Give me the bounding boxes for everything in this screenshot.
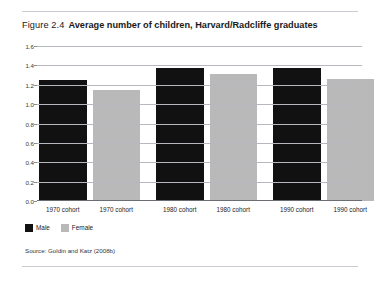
figure-source-note: Source: Goldin and Katz (2008b) [25,247,115,254]
figure-bottom-rule [22,266,358,267]
x-axis-tick-label: 1990 cohort [280,206,313,213]
gridline [37,46,362,47]
y-axis-tick-label: 1.2 [25,81,34,88]
gridline [37,124,362,125]
legend-label-male: Male [36,224,50,232]
y-axis-tick [34,46,37,47]
y-axis-tick-label: 1.4 [25,62,34,69]
y-axis-tick [34,104,37,105]
y-axis-tick [34,124,37,125]
y-axis-tick-label: 0.0 [25,198,34,205]
legend-label-female: Female [72,224,93,232]
y-axis-tick [34,182,37,183]
gridline [37,143,362,144]
y-axis-tick [34,65,37,66]
y-axis-tick [34,143,37,144]
legend-item-male: Male [25,224,50,232]
y-axis-tick [34,201,37,202]
figure-top-rule [22,11,358,12]
bar-male-1970 [39,80,87,201]
gridline [37,85,362,86]
y-axis-tick-label: 1.6 [25,43,34,50]
x-axis-tick-label: 1980 cohort [217,206,250,213]
x-axis-tick-label: 1990 cohort [334,206,367,213]
gridline [37,65,362,66]
y-axis-tick-label: 0.2 [25,178,34,185]
chart-legend: Male Female [25,224,93,232]
y-axis-tick [34,85,37,86]
y-axis-tick-label: 1.0 [25,101,34,108]
x-axis-labels: 1970 cohort1970 cohort1980 cohort1980 co… [37,206,362,218]
figure-block: Figure 2.4Average number of children, Ha… [0,0,378,282]
gridline [37,162,362,163]
y-axis-tick-label: 0.4 [25,159,34,166]
x-axis-baseline [37,200,362,201]
bar-female-1970 [93,90,141,201]
legend-item-female: Female [61,224,93,232]
figure-caption: Figure 2.4Average number of children, Ha… [22,19,362,31]
legend-swatch-male-icon [25,224,33,232]
gridline [37,104,362,105]
chart-plot-area: 0.00.20.40.60.81.01.21.41.6 [18,46,362,201]
y-axis-tick [34,162,37,163]
page-title: Average number of children, Harvard/Radc… [68,20,317,30]
chart-grid [37,46,362,201]
x-axis-tick-label: 1970 cohort [100,206,133,213]
y-axis-tick-label: 0.8 [25,120,34,127]
bar-female-1990 [327,79,375,201]
x-axis-tick-label: 1980 cohort [163,206,196,213]
figure-number: Figure 2.4 [22,20,64,30]
y-axis-tick-label: 0.6 [25,139,34,146]
gridline [37,182,362,183]
legend-swatch-female-icon [61,224,69,232]
x-axis-tick-label: 1970 cohort [46,206,79,213]
